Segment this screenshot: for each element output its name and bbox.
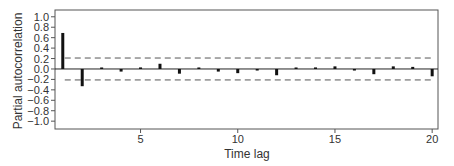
pacf-bar — [81, 69, 84, 86]
pacf-bar — [256, 69, 259, 71]
x-tick-label: 20 — [426, 133, 438, 145]
pacf-bar — [314, 67, 317, 69]
x-tick-label: 15 — [329, 133, 341, 145]
pacf-bar — [100, 67, 103, 69]
x-axis-label: Time lag — [224, 147, 270, 161]
pacf-bar — [353, 69, 356, 71]
x-tick-label: 10 — [232, 133, 244, 145]
pacf-chart: 1.00.80.60.40.20.0−0.2−0.4−0.6−0.8−1.0 5… — [0, 0, 454, 166]
x-axis-ticks: 5101520 — [137, 129, 438, 145]
pacf-bar — [295, 67, 298, 69]
x-tick-label: 5 — [137, 133, 143, 145]
y-axis-label: Partial autocorrelation — [11, 13, 25, 130]
pacf-bar — [139, 67, 142, 69]
pacf-bar — [61, 33, 64, 69]
pacf-bar — [217, 69, 220, 72]
pacf-bar — [333, 66, 336, 69]
pacf-bar — [275, 69, 278, 75]
pacf-bar — [158, 64, 161, 69]
pacf-bar — [431, 69, 434, 76]
pacf-bar — [411, 67, 414, 69]
pacf-bar — [372, 69, 375, 74]
pacf-bars — [61, 33, 433, 86]
pacf-bar — [120, 69, 123, 72]
plot-frame — [55, 10, 438, 129]
pacf-bar — [392, 66, 395, 69]
plot-border — [55, 10, 438, 129]
y-tick-label: −1.0 — [27, 115, 49, 127]
y-axis-ticks: 1.00.80.60.40.20.0−0.2−0.4−0.6−0.8−1.0 — [27, 11, 55, 127]
pacf-bar — [236, 69, 239, 73]
pacf-bar — [178, 69, 181, 74]
pacf-bar — [197, 67, 200, 69]
